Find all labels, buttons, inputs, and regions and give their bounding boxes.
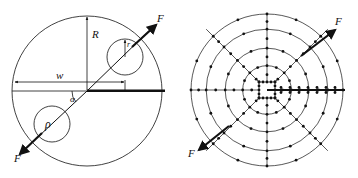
mesh-node xyxy=(276,99,279,102)
force-arrow-bottom xyxy=(20,133,42,154)
mesh-node xyxy=(280,86,283,89)
mesh-node xyxy=(255,99,258,102)
mesh-node xyxy=(289,112,292,115)
mesh-node xyxy=(322,112,325,115)
mesh-node xyxy=(319,35,322,38)
mesh-node xyxy=(325,91,328,94)
label-R: R xyxy=(91,28,99,40)
mesh-node xyxy=(258,93,261,96)
mesh-node xyxy=(275,66,278,69)
mesh-node xyxy=(275,111,278,114)
mesh-node xyxy=(266,140,269,143)
mesh-node xyxy=(250,127,253,130)
mesh-node xyxy=(316,91,319,94)
mesh-node xyxy=(248,106,251,109)
mesh-node xyxy=(336,118,339,121)
mesh-node xyxy=(266,56,269,59)
mesh-node xyxy=(266,149,269,152)
mesh-node xyxy=(334,86,337,89)
label-force-top-left: F xyxy=(156,12,164,24)
mesh-node xyxy=(309,132,312,135)
mesh-node xyxy=(266,81,269,84)
mesh-node xyxy=(242,32,245,35)
label-force-bottom-left: F xyxy=(13,152,21,164)
mesh-node xyxy=(266,37,269,40)
mesh-node xyxy=(266,113,269,116)
mesh-node xyxy=(295,59,298,62)
mesh-node xyxy=(243,79,246,82)
mesh-node xyxy=(237,159,240,162)
mesh-node xyxy=(274,97,277,100)
mesh-node xyxy=(289,32,292,35)
mesh-node xyxy=(243,98,246,101)
mesh-node xyxy=(241,89,244,92)
right-figure xyxy=(190,13,345,168)
mesh-node xyxy=(295,159,298,162)
mesh-node xyxy=(266,47,269,50)
mesh-node xyxy=(295,18,298,21)
mesh-node xyxy=(274,85,277,88)
mesh-node xyxy=(282,50,285,53)
mesh-node xyxy=(214,89,217,92)
mesh-node xyxy=(266,13,269,16)
mesh-node xyxy=(195,118,198,121)
mesh-node xyxy=(270,81,273,84)
mesh-node xyxy=(266,97,269,100)
label-rho: ρ xyxy=(44,117,51,131)
label-force-bottom-right: F xyxy=(187,147,195,159)
mesh-node xyxy=(266,73,269,76)
mesh-node xyxy=(195,60,198,63)
mesh-node xyxy=(295,118,298,121)
mesh-node xyxy=(325,86,328,89)
mesh-node xyxy=(314,40,317,43)
mesh-node xyxy=(223,46,226,49)
mesh-node xyxy=(298,91,301,94)
mesh-node xyxy=(304,73,307,76)
mesh-node xyxy=(242,112,245,115)
force-arrow-top xyxy=(132,25,156,47)
mesh-node xyxy=(237,18,240,21)
mesh-node xyxy=(209,112,212,115)
mesh-node xyxy=(274,89,277,92)
mesh-node xyxy=(217,137,220,140)
mesh-node xyxy=(227,73,230,76)
mesh-node xyxy=(266,122,269,125)
label-w: w xyxy=(56,69,64,81)
crack-slit xyxy=(87,90,165,93)
mesh-node xyxy=(288,98,291,101)
mesh-node xyxy=(304,105,307,108)
force-arrow-bottom xyxy=(199,126,229,150)
mesh-node xyxy=(258,97,261,100)
mesh-node xyxy=(242,145,245,148)
mesh-node xyxy=(276,78,279,81)
mesh-node xyxy=(319,142,322,145)
label-alpha: α xyxy=(70,94,75,104)
crack-slit xyxy=(267,89,345,91)
mesh-node xyxy=(229,125,232,128)
mesh-node xyxy=(236,118,239,121)
mesh-node xyxy=(274,93,277,96)
mesh-node xyxy=(212,35,215,38)
label-force-top-right: F xyxy=(334,15,342,27)
mesh-node xyxy=(242,65,245,68)
mesh-node xyxy=(307,91,310,94)
mesh-node xyxy=(217,40,220,43)
mesh-node xyxy=(282,127,285,130)
mesh-node xyxy=(197,89,200,92)
mesh-node xyxy=(233,89,236,92)
mesh-node xyxy=(262,81,265,84)
mesh-node xyxy=(258,89,261,92)
mesh-node xyxy=(258,81,261,84)
mesh-node xyxy=(266,20,269,23)
mesh-node xyxy=(205,89,208,92)
mesh-node xyxy=(302,125,305,128)
mesh-node xyxy=(289,86,292,89)
mesh-node xyxy=(256,66,259,69)
diagram-canvas: R r ρ w α F F F F xyxy=(0,0,358,178)
mesh-node xyxy=(283,106,286,109)
left-figure xyxy=(12,16,165,166)
mesh-node xyxy=(288,79,291,82)
mesh-node xyxy=(190,89,193,92)
mesh-node xyxy=(289,91,292,94)
mesh-node xyxy=(280,91,283,94)
